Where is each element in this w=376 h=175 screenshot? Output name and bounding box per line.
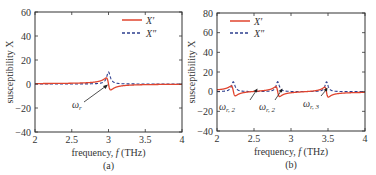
svg-text:ωr: ωr bbox=[72, 99, 82, 112]
a-xtick: 2.5 bbox=[66, 134, 79, 145]
panel-b: 80 60 40 20 0 −20 −40 2 2.5 3 3.5 4 freq… bbox=[186, 8, 368, 172]
a-xtick: 2 bbox=[33, 134, 38, 145]
b-ytick: −40 bbox=[197, 126, 213, 137]
b-annotation-2: ωr, 2 bbox=[259, 89, 283, 115]
panel-b-frame bbox=[217, 13, 365, 131]
series-x-prime bbox=[35, 78, 182, 90]
legend-imag-label: X″ bbox=[145, 28, 157, 39]
b-xtick: 2.5 bbox=[248, 133, 261, 144]
b-legend: X′ X″ bbox=[230, 16, 265, 39]
a-annotation-omega-r: ωr bbox=[72, 85, 108, 113]
b-ytick: 40 bbox=[203, 47, 213, 58]
b-ytick: 60 bbox=[203, 27, 213, 38]
b-xtick: 2 bbox=[215, 133, 220, 144]
a-ytick: 20 bbox=[21, 55, 31, 66]
panel-b-curves bbox=[217, 82, 365, 97]
svg-text:ωr, 2: ωr, 2 bbox=[259, 101, 276, 114]
b-ytick: 80 bbox=[203, 8, 213, 19]
a-legend: X′ X″ bbox=[122, 15, 157, 39]
a-xtick: 4 bbox=[180, 134, 185, 145]
series-x-double-prime bbox=[217, 82, 365, 92]
panel-b-ticks bbox=[217, 13, 365, 131]
a-ytick: −20 bbox=[15, 103, 31, 114]
a-xlabel: frequency, f (THz) bbox=[71, 147, 145, 159]
b-annotation-1: ωr, 2 bbox=[219, 89, 258, 115]
figure: 60 40 20 0 −20 −40 2 2.5 3 3.5 4 frequen… bbox=[0, 0, 376, 175]
b-xtick: 3 bbox=[289, 133, 294, 144]
b-xtick: 3.5 bbox=[322, 133, 335, 144]
a-xtick: 3 bbox=[106, 134, 111, 145]
legend-real-label: X′ bbox=[145, 15, 155, 26]
b-caption: (b) bbox=[285, 159, 297, 171]
a-caption: (a) bbox=[103, 160, 114, 172]
b-ytick: 0 bbox=[208, 86, 213, 97]
svg-text:ωr, 2: ωr, 2 bbox=[219, 101, 236, 114]
legend-imag-label: X″ bbox=[253, 28, 265, 39]
b-xlabel: frequency, f (THz) bbox=[254, 146, 328, 158]
a-ytick: 0 bbox=[26, 79, 31, 90]
b-ylabel: susceptibility X bbox=[186, 40, 197, 104]
a-ytick: −40 bbox=[15, 127, 31, 138]
b-ytick: −20 bbox=[197, 106, 213, 117]
a-xtick: 3.5 bbox=[139, 134, 152, 145]
legend-real-label: X′ bbox=[253, 16, 263, 27]
a-ylabel: susceptibility X bbox=[4, 40, 15, 104]
a-ytick: 40 bbox=[21, 31, 31, 42]
b-ytick: 20 bbox=[203, 67, 213, 78]
panel-a: 60 40 20 0 −20 −40 2 2.5 3 3.5 4 frequen… bbox=[4, 7, 185, 173]
svg-text:ωr, 3: ωr, 3 bbox=[303, 98, 320, 111]
b-xtick: 4 bbox=[363, 133, 368, 144]
panel-a-curves bbox=[35, 72, 182, 90]
a-ytick: 60 bbox=[21, 7, 31, 18]
